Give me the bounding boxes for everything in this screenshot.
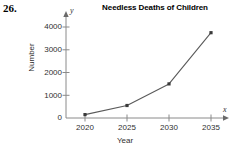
data-point-2020 — [83, 113, 86, 116]
chart-figure: 26. Needless Deaths of Children y x Numb… — [0, 0, 233, 149]
data-point-2025 — [125, 104, 128, 107]
data-point-2035 — [209, 31, 212, 34]
x-axis-arrowhead — [223, 115, 229, 120]
plot-area — [0, 0, 233, 149]
y-axis-arrowhead — [63, 11, 68, 17]
data-point-2030 — [167, 82, 170, 85]
data-line — [85, 33, 211, 115]
